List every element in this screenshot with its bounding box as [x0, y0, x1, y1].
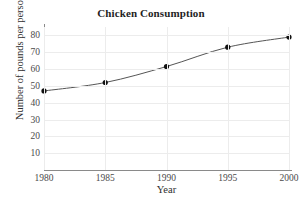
- y-axis-tick-label: 70: [18, 47, 40, 57]
- y-axis-tick-label: 40: [18, 98, 40, 108]
- x-axis-tick-label: 1990: [147, 173, 187, 183]
- gridline-vertical: [289, 27, 290, 170]
- x-axis-tick-label: 1980: [24, 173, 64, 183]
- gridline-vertical: [167, 27, 168, 170]
- y-axis-tick-label: 50: [18, 81, 40, 91]
- gridline-vertical: [228, 27, 229, 170]
- x-axis-line: [44, 170, 292, 171]
- gridline-vertical: [44, 27, 45, 170]
- y-axis-tick-label: 60: [18, 64, 40, 74]
- x-axis-label: Year: [44, 184, 289, 195]
- chart-title: Chicken Consumption: [0, 7, 302, 19]
- y-axis-tick-label: 80: [18, 30, 40, 40]
- y-axis-tick-label: 30: [18, 115, 40, 125]
- plot-area: [44, 27, 289, 170]
- x-axis-tick-label: 2000: [269, 173, 302, 183]
- x-axis-tick-label: 1985: [85, 173, 125, 183]
- y-axis-tick-label: 10: [18, 148, 40, 158]
- chart-figure: Chicken Consumption Number of pounds per…: [0, 0, 302, 204]
- x-axis-tick-label: 1995: [208, 173, 248, 183]
- gridline-vertical: [105, 27, 106, 170]
- y-axis-tick-label: 20: [18, 131, 40, 141]
